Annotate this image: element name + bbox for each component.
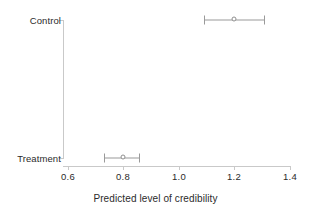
- y-axis-label-treatment: Treatment: [17, 153, 61, 164]
- x-tick-mark-0: [68, 166, 69, 170]
- x-tick-label-2: 1.0: [172, 171, 186, 182]
- estimate-marker: [232, 17, 237, 22]
- error-bar-treatment: [104, 153, 140, 164]
- x-tick-label-4: 1.4: [283, 171, 297, 182]
- x-tick-label-1: 0.8: [116, 171, 130, 182]
- plot-area: Control Treatment 0.6 0.8 1.0 1.2 1.4 Pr…: [0, 0, 311, 215]
- x-tick-mark-2: [179, 166, 180, 170]
- y-axis-line: [63, 20, 64, 159]
- x-tick-mark-4: [290, 166, 291, 170]
- estimate-marker: [121, 155, 126, 160]
- x-tick-label-0: 0.6: [61, 171, 75, 182]
- error-bar-control: [204, 15, 265, 26]
- error-bar-cap-low: [204, 16, 205, 25]
- x-tick-mark-3: [234, 166, 235, 170]
- x-axis-line: [63, 166, 291, 167]
- error-bar-cap-high: [139, 154, 140, 163]
- x-tick-label-3: 1.2: [227, 171, 241, 182]
- x-tick-mark-1: [123, 166, 124, 170]
- error-bar-cap-high: [264, 16, 265, 25]
- y-axis-label-control: Control: [30, 15, 61, 26]
- forest-plot-chart: Control Treatment 0.6 0.8 1.0 1.2 1.4 Pr…: [0, 0, 311, 215]
- x-axis-title: Predicted level of credibility: [0, 193, 311, 204]
- error-bar-cap-low: [104, 154, 105, 163]
